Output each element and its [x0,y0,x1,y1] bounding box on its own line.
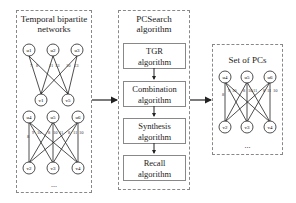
svg-text:8: 8 [243,88,246,93]
svg-text:13: 13 [55,63,60,68]
svg-text:13: 13 [74,63,79,68]
svg-text:11: 11 [59,130,63,135]
svg-text:10: 10 [66,63,71,68]
svg-text:8: 8 [48,130,51,135]
svg-text:u5: u5 [51,115,57,120]
diagram-graphics: u1 u2 u3 v1 v5 7 8 11 13 10 13 u4 u5 u6 … [0,0,296,203]
svg-text:11: 11 [49,63,53,68]
svg-text:10: 10 [53,130,58,135]
graph-1 [29,56,77,94]
svg-text:u3: u3 [75,48,81,53]
svg-text:v1: v1 [39,98,45,103]
svg-text:8: 8 [222,92,225,97]
svg-text:v2: v2 [27,166,33,171]
svg-text:u1: u1 [27,48,33,53]
svg-text:v4: v4 [76,166,82,171]
svg-text:u6: u6 [76,115,82,120]
graph-1-nodes [23,44,83,106]
svg-text:10: 10 [232,88,237,93]
svg-text:v3: v3 [51,166,57,171]
svg-text:v2: v2 [223,125,229,130]
svg-text:v5: v5 [66,98,72,103]
graph-2 [29,122,78,163]
svg-text:10: 10 [273,88,278,93]
svg-text:10: 10 [79,130,84,135]
svg-text:u6: u6 [268,75,274,80]
svg-text:u4: u4 [27,115,33,120]
svg-text:u4: u4 [223,75,229,80]
svg-text:u2: u2 [51,48,57,53]
svg-text:v3: v3 [245,125,251,130]
svg-text:10: 10 [37,130,42,135]
svg-text:11: 11 [267,88,271,93]
svg-text:11: 11 [253,88,257,93]
svg-text:u5: u5 [245,75,251,80]
svg-text:11: 11 [73,130,77,135]
svg-text:8: 8 [27,134,30,139]
svg-text:v4: v4 [268,125,274,130]
